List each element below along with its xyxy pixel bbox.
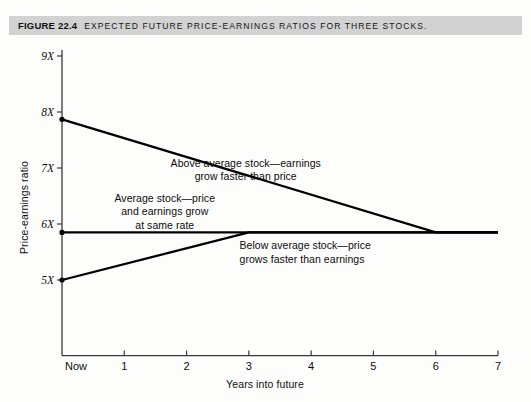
annotation-line: Above average stock—earnings bbox=[171, 157, 321, 170]
x-tick-label: 4 bbox=[308, 360, 314, 372]
annotation-line: grow faster than price bbox=[171, 170, 321, 183]
annotation-line: Below average stock—price bbox=[240, 239, 371, 252]
x-axis-ticks bbox=[124, 351, 498, 356]
chart-start-marker bbox=[59, 277, 64, 282]
x-axis-title: Years into future bbox=[226, 378, 304, 390]
annotation-line: grows faster than earnings bbox=[240, 253, 371, 266]
y-tick-label: 8X bbox=[22, 106, 54, 118]
x-tick-label: 2 bbox=[184, 360, 190, 372]
chart-start-marker bbox=[59, 230, 64, 235]
y-tick-label: 9X bbox=[22, 50, 54, 62]
chart-plot-area: 5X6X7X8X9XNow1234567Price-earnings ratio… bbox=[0, 36, 531, 402]
x-tick-label: 6 bbox=[433, 360, 439, 372]
x-tick-label: Now bbox=[65, 360, 87, 372]
x-tick-label: 3 bbox=[246, 360, 252, 372]
x-tick-label: 1 bbox=[121, 360, 127, 372]
chart-annotation-below-average: Below average stock—pricegrows faster th… bbox=[240, 239, 371, 266]
y-tick-label: 5X bbox=[22, 274, 54, 286]
figure-page: FIGURE 22.4 EXPECTED FUTURE PRICE-EARNIN… bbox=[0, 0, 531, 402]
y-axis-ticks bbox=[57, 56, 62, 280]
y-axis-title: Price-earnings ratio bbox=[18, 161, 30, 254]
annotation-line: at same rate bbox=[114, 219, 215, 232]
chart-start-marker bbox=[59, 117, 64, 122]
annotation-line: and earnings grow bbox=[114, 205, 215, 218]
chart-annotation-average: Average stock—priceand earnings growat s… bbox=[114, 192, 215, 232]
x-tick-label: 5 bbox=[370, 360, 376, 372]
figure-caption-text: EXPECTED FUTURE PRICE-EARNINGS RATIOS FO… bbox=[84, 21, 427, 31]
chart-annotation-above-average: Above average stock—earningsgrow faster … bbox=[171, 157, 321, 184]
figure-caption-bar: FIGURE 22.4 EXPECTED FUTURE PRICE-EARNIN… bbox=[9, 16, 522, 35]
figure-number-label: FIGURE 22.4 bbox=[18, 20, 77, 31]
x-tick-label: 7 bbox=[495, 360, 501, 372]
annotation-line: Average stock—price bbox=[114, 192, 215, 205]
chart-svg bbox=[0, 36, 531, 402]
